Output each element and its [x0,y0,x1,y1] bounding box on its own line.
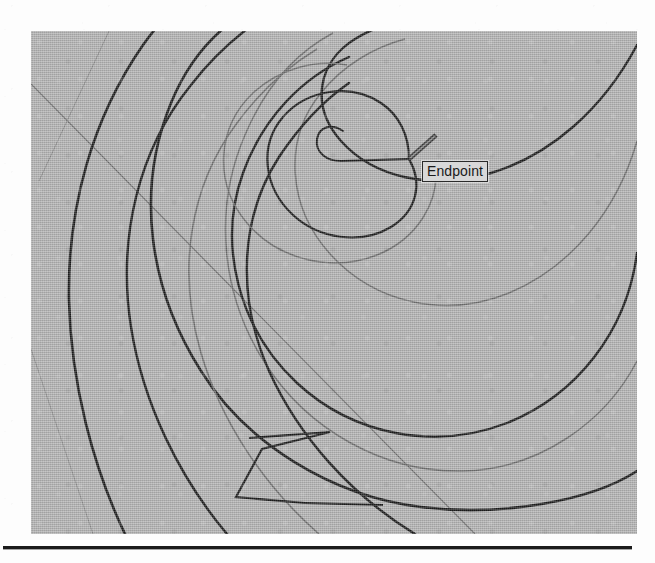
cad-drawing-area[interactable] [31,31,637,534]
secondary-construction-line [39,31,109,181]
endpoint-snap-leader-highlight [410,136,435,158]
spiral-arm-5-left [247,83,415,534]
scanned-page: Endpoint [0,0,655,563]
lower-left-construction-line [31,349,93,534]
spiral-arm-3-left [127,31,255,534]
spiral-arm-4-left [189,49,319,534]
osnap-endpoint-tooltip: Endpoint [422,161,488,182]
closed-polyline-shape [236,432,330,503]
spiral-inner-loop [267,91,416,237]
page-bottom-rule [3,546,632,549]
spiral-arm-outer [151,31,637,510]
osnap-tooltip-label: Endpoint [427,163,483,179]
spiral-inner-terminus [317,127,410,161]
cad-vector-layer [31,31,637,534]
spiral-inner-light-arc [224,63,436,263]
